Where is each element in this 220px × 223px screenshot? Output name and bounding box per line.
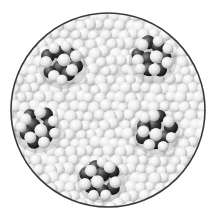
solvent-sphere: [193, 18, 207, 32]
solvent-sphere: [117, 209, 131, 223]
solvent-sphere: [193, 37, 205, 49]
light-atom-sphere: [88, 190, 99, 201]
solvent-sphere: [186, 38, 197, 49]
solvent-sphere: [54, 200, 65, 211]
solvent-sphere: [62, 201, 73, 212]
light-atom-sphere: [148, 63, 160, 75]
light-atom-sphere: [104, 161, 116, 173]
solution-magnified-view: [0, 0, 220, 223]
solvent-sphere: [57, 208, 70, 221]
solvent-sphere: [35, 19, 47, 31]
solvent-sphere: [197, 29, 208, 40]
light-atom-sphere: [49, 128, 60, 139]
solvent-sphere: [179, 209, 190, 220]
solvent-sphere: [194, 163, 206, 175]
solvent-sphere: [66, 208, 79, 221]
solvent-sphere: [9, 172, 22, 185]
light-atom-sphere: [135, 63, 146, 74]
solvent-sphere: [19, 190, 31, 202]
solvent-sphere: [190, 13, 201, 24]
solvent-sphere: [156, 2, 167, 13]
light-atom-sphere: [138, 126, 150, 138]
solvent-sphere: [4, 19, 16, 31]
solvent-sphere: [116, 2, 127, 13]
solvent-sphere: [177, 172, 191, 186]
solvent-sphere: [18, 30, 31, 43]
solvent-sphere: [203, 39, 216, 52]
solvent-sphere: [18, 209, 31, 222]
solvent-sphere: [49, 193, 60, 204]
solvent-sphere: [186, 201, 198, 213]
solvent-sphere: [15, 198, 28, 211]
solvent-sphere: [140, 208, 153, 221]
solvent-sphere: [49, 209, 62, 222]
solvent-sphere: [18, 173, 29, 184]
solvent-sphere: [163, 20, 176, 33]
solvent-sphere: [159, 210, 170, 221]
solvent-sphere: [94, 109, 106, 121]
solvent-sphere: [37, 11, 50, 24]
solvent-sphere: [11, 162, 25, 176]
solvent-sphere: [186, 29, 199, 42]
solvent-sphere: [36, 190, 50, 204]
light-atom-sphere: [110, 176, 122, 188]
solvent-sphere: [175, 1, 186, 12]
solvent-sphere: [12, 19, 25, 32]
solvent-sphere: [175, 21, 187, 33]
solvent-sphere: [206, 2, 218, 14]
light-atom-sphere: [49, 43, 60, 54]
light-atom-sphere: [162, 43, 173, 54]
light-atom-sphere: [70, 50, 82, 62]
solvent-sphere: [9, 30, 21, 42]
light-atom-sphere: [143, 139, 155, 151]
solvent-sphere: [2, 182, 15, 195]
solvent-sphere: [10, 48, 21, 59]
solution-illustration: [0, 0, 220, 223]
solvent-sphere: [140, 83, 151, 94]
light-atom-sphere: [163, 116, 175, 128]
light-atom-sphere: [79, 178, 91, 190]
solvent-sphere: [131, 82, 142, 93]
solvent-sphere: [107, 210, 119, 222]
solvent-sphere: [171, 11, 182, 22]
solvent-sphere: [164, 1, 177, 14]
solvent-sphere: [19, 11, 30, 22]
solvent-sphere: [166, 164, 177, 175]
solvent-sphere: [204, 145, 218, 159]
solvent-sphere: [203, 55, 216, 68]
light-atom-sphere: [34, 106, 46, 118]
solvent-sphere: [74, 199, 88, 213]
light-atom-sphere: [137, 39, 149, 51]
solvent-sphere: [3, 147, 15, 159]
light-atom-sphere: [150, 128, 163, 141]
solvent-sphere: [205, 183, 216, 194]
solvent-sphere: [185, 2, 196, 13]
light-atom-sphere: [38, 137, 50, 149]
solvent-sphere: [8, 10, 21, 23]
solvent-sphere: [202, 162, 216, 176]
solvent-sphere: [3, 55, 15, 67]
solvent-sphere: [175, 200, 188, 213]
solvent-sphere: [197, 156, 209, 168]
light-atom-sphere: [161, 57, 173, 69]
solvent-sphere: [195, 183, 206, 194]
light-atom-sphere: [139, 112, 150, 123]
light-atom-sphere: [58, 54, 71, 67]
light-atom-sphere: [34, 124, 47, 137]
solvent-sphere: [28, 12, 39, 23]
solvent-sphere: [170, 190, 183, 203]
solvent-sphere: [5, 201, 15, 211]
light-atom-sphere: [153, 36, 164, 47]
solvent-sphere: [27, 189, 41, 203]
light-atom-sphere: [100, 190, 111, 201]
solvent-sphere: [156, 202, 168, 214]
solvent-sphere: [89, 208, 102, 221]
solvent-sphere: [148, 210, 159, 221]
solvent-sphere: [143, 4, 154, 15]
light-atom-sphere: [158, 141, 169, 152]
solvent-sphere: [198, 47, 209, 58]
solvent-sphere: [5, 3, 16, 14]
light-atom-sphere: [57, 75, 68, 86]
light-atom-sphere: [85, 165, 97, 177]
solvent-sphere: [178, 29, 189, 40]
